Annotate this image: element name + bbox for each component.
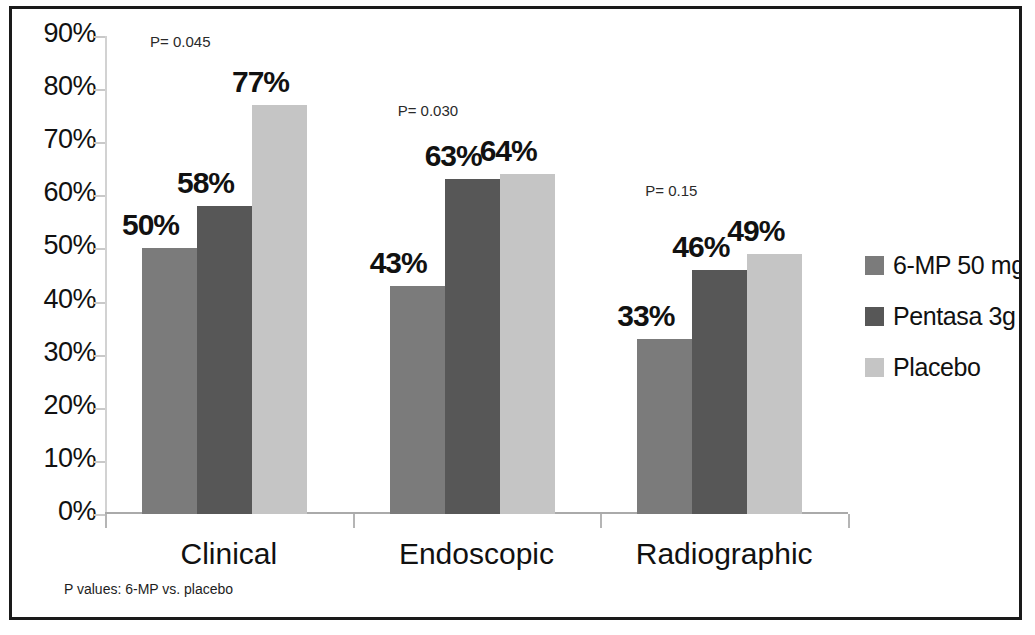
bar — [197, 206, 252, 514]
bar-value-label: 33% — [617, 299, 674, 333]
legend-item: Placebo — [865, 355, 1015, 379]
y-axis-tick — [94, 36, 105, 38]
bar — [747, 254, 802, 514]
bar-value-label: 58% — [177, 166, 234, 200]
y-axis-line — [105, 36, 107, 514]
legend-swatch-icon — [865, 358, 884, 377]
y-axis-tick-label: 50% — [43, 230, 96, 261]
bar-value-label: 43% — [370, 246, 427, 280]
y-axis-tick-label: 40% — [43, 284, 96, 315]
y-axis-tick — [94, 355, 105, 357]
chart-footnote: P values: 6-MP vs. placebo — [64, 581, 233, 597]
y-axis-tick-label: 90% — [43, 18, 96, 49]
y-axis-tick-label: 20% — [43, 390, 96, 421]
bar — [142, 248, 197, 514]
y-axis-tick — [94, 195, 105, 197]
legend-label: Placebo — [893, 353, 981, 382]
y-axis-tick-label: 10% — [43, 443, 96, 474]
y-axis-tick-label: 60% — [43, 177, 96, 208]
x-axis-category-label: Radiographic — [600, 537, 848, 571]
bar — [445, 179, 500, 514]
y-axis-tick — [94, 461, 105, 463]
legend-item: Pentasa 3g — [865, 304, 1015, 328]
x-axis-category-label: Endoscopic — [353, 537, 601, 571]
bar — [390, 286, 445, 514]
category-separator-tick — [600, 514, 602, 528]
bar-value-label: 63% — [425, 139, 482, 173]
p-value-annotation: P= 0.045 — [150, 33, 210, 50]
y-axis-labels: 90%80%70%60%50%40%30%20%10%0% — [12, 36, 96, 514]
bar — [252, 105, 307, 514]
legend-swatch-icon — [865, 307, 884, 326]
y-axis-tick-label: 80% — [43, 71, 96, 102]
legend-swatch-icon — [865, 256, 884, 275]
category-separator-tick — [848, 514, 850, 528]
bar-value-label: 77% — [232, 65, 289, 99]
category-separator-tick — [105, 514, 107, 528]
bar-value-label: 46% — [672, 230, 729, 264]
y-axis-tick-label: 0% — [58, 496, 96, 527]
p-value-annotation: P= 0.030 — [398, 102, 458, 119]
bar — [637, 339, 692, 514]
bar-value-label: 49% — [727, 214, 784, 248]
chart-legend: 6-MP 50 mgPentasa 3gPlacebo — [865, 253, 1015, 406]
y-axis-tick — [94, 142, 105, 144]
category-separator-tick — [353, 514, 355, 528]
y-axis-tick — [94, 302, 105, 304]
legend-label: Pentasa 3g — [893, 302, 1016, 331]
y-axis-tick-label: 30% — [43, 337, 96, 368]
x-axis-category-label: Clinical — [105, 537, 353, 571]
legend-label: 6-MP 50 mg — [893, 251, 1022, 280]
y-axis-tick-label: 70% — [43, 124, 96, 155]
bar-value-label: 64% — [480, 134, 537, 168]
y-axis-tick — [94, 408, 105, 410]
y-axis-tick — [94, 89, 105, 91]
chart-frame: 90%80%70%60%50%40%30%20%10%0% 50%58%77%P… — [9, 6, 1022, 620]
y-axis-tick — [94, 248, 105, 250]
legend-item: 6-MP 50 mg — [865, 253, 1015, 277]
bar-value-label: 50% — [122, 208, 179, 242]
p-value-annotation: P= 0.15 — [645, 182, 697, 199]
y-axis-tick — [94, 514, 105, 516]
bar — [500, 174, 555, 514]
plot-area: 50%58%77%P= 0.04543%63%64%P= 0.03033%46%… — [105, 36, 848, 514]
bar — [692, 270, 747, 514]
